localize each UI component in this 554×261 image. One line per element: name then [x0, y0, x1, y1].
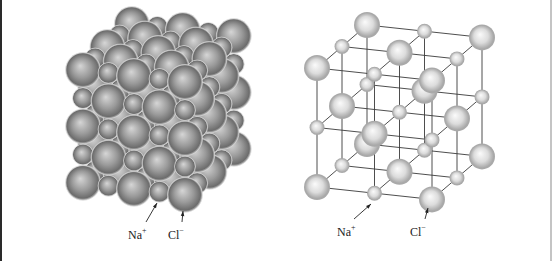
arrowhead-icon: [153, 203, 157, 208]
na-ion-sphere: [149, 69, 170, 90]
packed-cl-label: Cl−: [168, 226, 184, 241]
na-ion-sphere: [425, 132, 440, 147]
cl-ion-sphere: [469, 143, 495, 169]
na-ion-sphere: [73, 88, 94, 109]
lattice-na-charge: +: [351, 223, 356, 232]
cl-ion-sphere: [117, 171, 152, 206]
na-ion-sphere: [310, 120, 325, 135]
lattice-cl-charge: −: [421, 223, 426, 232]
cl-ion-sphere: [387, 40, 413, 66]
cl-ion-sphere: [354, 12, 380, 38]
lattice-spheres: [304, 12, 495, 212]
lattice-cl-label: Cl−: [410, 223, 426, 238]
cl-ion-sphere: [304, 174, 330, 200]
cl-ion-sphere: [469, 24, 495, 50]
cl-ion-sphere: [387, 159, 413, 185]
cl-ion-sphere: [419, 186, 445, 212]
packed-na-symbol: Na: [128, 228, 142, 242]
cl-ion-sphere: [419, 67, 445, 93]
lattice-na-label: Na+: [337, 223, 356, 238]
na-ion-sphere: [149, 181, 170, 202]
na-ion-sphere: [335, 158, 350, 173]
na-ion-sphere: [98, 175, 119, 196]
packed-na-charge: +: [142, 226, 147, 235]
na-ion-sphere: [367, 186, 382, 201]
na-ion-sphere: [124, 150, 145, 171]
na-ion-sphere: [98, 119, 119, 140]
cl-ion-sphere: [117, 59, 152, 94]
cl-ion-sphere: [444, 105, 470, 131]
na-ion-sphere: [475, 89, 490, 104]
na-ion-sphere: [175, 156, 196, 177]
cl-ion-sphere: [66, 109, 101, 144]
lattice-cl-symbol: Cl: [410, 225, 421, 239]
cl-ion-sphere: [142, 146, 177, 181]
cl-ion-sphere: [91, 84, 126, 119]
na-ion-sphere: [124, 94, 145, 115]
cl-ion-sphere: [66, 165, 101, 200]
cl-ion-sphere: [329, 93, 355, 119]
cl-ion-sphere: [362, 121, 388, 147]
cl-ion-sphere: [168, 121, 203, 156]
na-ion-sphere: [392, 105, 407, 120]
na-ion-sphere: [98, 63, 119, 84]
na-ion-sphere: [450, 170, 465, 185]
packed-na-label: Na+: [128, 226, 147, 241]
cl-ion-sphere: [142, 90, 177, 125]
cl-ion-sphere: [168, 65, 203, 100]
nacl-crystal-diagram: [0, 0, 554, 261]
na-ion-sphere: [335, 39, 350, 54]
na-ion-sphere: [417, 24, 432, 39]
packed-cl-symbol: Cl: [168, 228, 179, 242]
space-filling-model: [66, 7, 252, 213]
cl-ion-sphere: [117, 115, 152, 150]
na-ion-sphere: [149, 125, 170, 146]
na-ion-sphere: [175, 100, 196, 121]
cl-ion-sphere: [66, 53, 101, 88]
na-ion-sphere: [73, 144, 94, 165]
cl-ion-sphere: [304, 55, 330, 81]
packed-cl-charge: −: [179, 226, 184, 235]
cl-ion-sphere: [168, 177, 203, 212]
cl-ion-sphere: [91, 140, 126, 175]
na-ion-sphere: [450, 51, 465, 66]
lattice-na-symbol: Na: [337, 225, 351, 239]
na-ion-sphere: [367, 67, 382, 82]
